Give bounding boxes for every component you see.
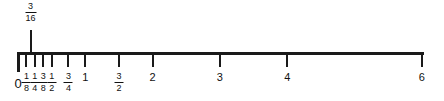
callout-label: 316: [25, 2, 36, 23]
axis-tick: [118, 52, 120, 67]
fraction-denominator: 2: [116, 84, 121, 93]
axis-tick-label: 1: [82, 72, 88, 83]
axis-tick: [84, 52, 86, 67]
callout-tick: [30, 30, 32, 52]
fraction-denominator: 16: [26, 14, 36, 23]
axis-tick-label: 6: [419, 72, 425, 83]
axis-tick: [286, 52, 288, 67]
fraction-denominator: 2: [49, 84, 54, 93]
axis-tick: [34, 52, 36, 67]
axis-tick: [51, 52, 53, 67]
axis-tick-label: 0: [14, 77, 21, 90]
fraction-numerator: 3: [116, 72, 121, 81]
fraction-denominator: 8: [24, 84, 29, 93]
fraction-denominator: 8: [41, 84, 46, 93]
fraction-denominator: 4: [32, 84, 37, 93]
fraction-numerator: 1: [49, 72, 54, 81]
axis-tick: [42, 52, 44, 67]
axis-tick: [421, 52, 423, 67]
axis-tick: [152, 52, 154, 67]
axis-tick-label: 34: [64, 72, 73, 93]
fraction-numerator: 1: [24, 72, 29, 81]
axis-tick-label: 12: [47, 72, 56, 93]
axis-tick-label: 2: [150, 72, 156, 83]
fraction-numerator: 3: [66, 72, 71, 81]
fraction-numerator: 3: [28, 2, 33, 11]
fraction-numerator: 1: [32, 72, 37, 81]
axis-tick-label: 3: [217, 72, 223, 83]
fraction-denominator: 4: [66, 84, 71, 93]
axis-tick: [219, 52, 221, 67]
axis-tick-label: 32: [114, 72, 123, 93]
number-line-figure: 018143812341322346316: [0, 0, 444, 101]
axis-tick-label: 4: [284, 72, 290, 83]
axis-tick: [17, 52, 20, 72]
fraction-numerator: 3: [41, 72, 46, 81]
axis-tick: [67, 52, 69, 67]
axis-tick: [25, 52, 27, 67]
